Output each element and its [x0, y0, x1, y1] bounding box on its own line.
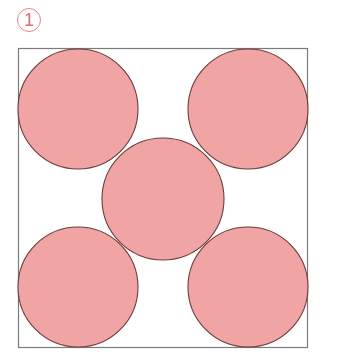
- circle-center: [102, 138, 224, 260]
- circle-top-left: [18, 49, 138, 169]
- circle-bottom-left: [18, 227, 138, 347]
- circle-bottom-right: [188, 227, 308, 347]
- circles-in-square-diagram: [0, 0, 350, 364]
- circle-top-right: [188, 49, 308, 169]
